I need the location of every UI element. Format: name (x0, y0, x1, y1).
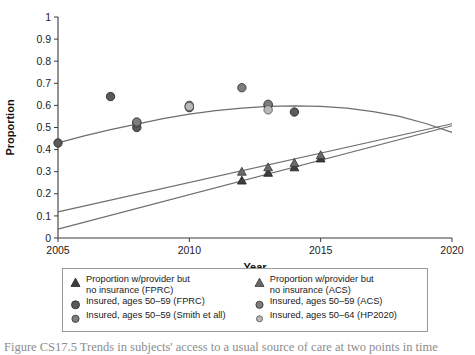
legend-marker (69, 297, 82, 310)
legend-marker (69, 311, 82, 324)
legend-marker (253, 297, 266, 310)
legend-item[interactable]: Proportion w/provider but no insurance (… (253, 274, 423, 295)
y-tick-label: 0.5 (36, 121, 51, 133)
y-tick-label: 0.1 (36, 210, 51, 222)
chart-plot-area: 00.10.20.30.40.50.60.70.80.9120052010201… (0, 0, 475, 270)
y-tick-label: 0.7 (36, 77, 51, 89)
legend-marker (253, 275, 266, 288)
legend-item-label: Insured, ages 50–59 (ACS) (270, 296, 383, 307)
data-point-circle (264, 106, 272, 114)
legend-column-right: Proportion w/provider but no insurance (… (253, 274, 423, 327)
legend-item-label: Proportion w/provider but no insurance (… (86, 274, 190, 295)
legend-item-label: Insured, ages 50–59 (Smith et all) (86, 310, 226, 321)
legend-item-label: Insured, ages 50–64 (HP2020) (270, 310, 397, 321)
data-point-circle (54, 139, 62, 147)
y-tick-label: 0.6 (36, 99, 51, 111)
x-tick-label: 2005 (46, 244, 70, 256)
circle-mid-glyph (256, 301, 263, 308)
y-tick-label: 0.8 (36, 55, 51, 67)
triangle-mid-glyph (255, 278, 264, 286)
figure-container: 00.10.20.30.40.50.60.70.80.9120052010201… (0, 0, 475, 355)
circle-mid-glyph (72, 315, 79, 322)
legend-item-label: Proportion w/provider but no insurance (… (270, 274, 374, 295)
legend-marker (69, 275, 82, 288)
triangle-dark-marker-icon (69, 276, 82, 289)
legend-item[interactable]: Proportion w/provider but no insurance (… (69, 274, 253, 295)
y-tick-label: 1 (45, 11, 51, 23)
circle-light-glyph (256, 316, 262, 322)
x-tick-label: 2020 (440, 244, 464, 256)
trendline-fprc-linear-fit (58, 126, 452, 229)
chart-legend: Proportion w/provider but no insurance (… (62, 268, 428, 332)
circle-dark-glyph (72, 301, 80, 309)
circle-light-marker-icon (253, 312, 266, 325)
data-point-circle (290, 108, 298, 116)
data-point-circle (133, 118, 141, 126)
data-point-circle (238, 84, 246, 92)
y-tick-label: 0 (45, 232, 51, 244)
caption-text: Figure CS17.5 Trends in subjects' access… (0, 340, 475, 355)
y-tick-label: 0.2 (36, 187, 51, 199)
legend-column-left: Proportion w/provider but no insurance (… (69, 274, 253, 327)
legend-item[interactable]: Insured, ages 50–64 (HP2020) (253, 310, 423, 323)
y-axis-title: Proportion (4, 99, 16, 155)
circle-mid-marker-icon (69, 312, 82, 325)
y-tick-label: 0.4 (36, 143, 51, 155)
data-point-circle (185, 102, 193, 110)
triangle-dark-glyph (71, 278, 80, 286)
triangle-mid-marker-icon (253, 276, 266, 289)
legend-item-label: Insured, ages 50–59 (FPRC) (86, 296, 205, 307)
legend-marker (253, 311, 266, 324)
legend-columns: Proportion w/provider but no insurance (… (63, 269, 427, 331)
y-tick-label: 0.9 (36, 33, 51, 45)
legend-item[interactable]: Insured, ages 50–59 (FPRC) (69, 296, 253, 309)
circle-mid-marker-icon (253, 298, 266, 311)
figure-caption: Figure CS17.5 Trends in subjects' access… (0, 338, 475, 355)
circle-dark-marker-icon (69, 298, 82, 311)
trendline-acs-linear-fit (58, 124, 452, 212)
x-tick-label: 2010 (178, 244, 202, 256)
data-point-circle (106, 92, 114, 100)
legend-item[interactable]: Insured, ages 50–59 (Smith et all) (69, 310, 253, 323)
legend-item[interactable]: Insured, ages 50–59 (ACS) (253, 296, 423, 309)
y-tick-label: 0.3 (36, 165, 51, 177)
x-tick-label: 2015 (309, 244, 333, 256)
